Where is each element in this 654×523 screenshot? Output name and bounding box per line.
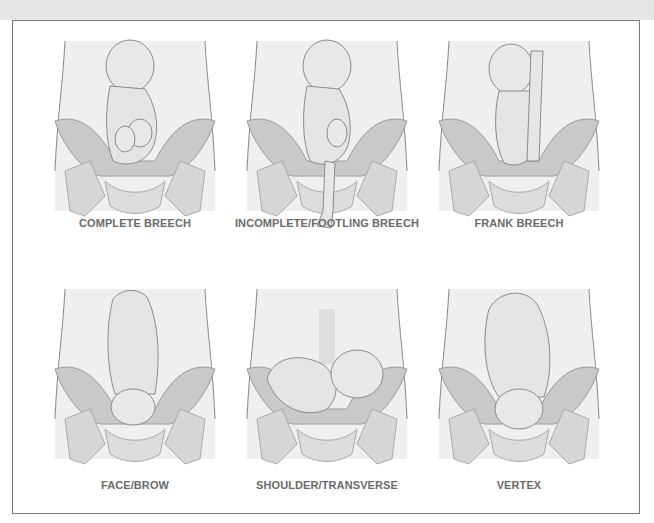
panel-vertex: VERTEX xyxy=(419,269,619,509)
panel-incomplete-footling-breech: INCOMPLETE/FOOTLING BREECH xyxy=(227,21,427,261)
vertex-illustration xyxy=(419,269,619,509)
panel-caption: VERTEX xyxy=(419,479,619,491)
panel-face-brow: FACE/BROW xyxy=(35,269,235,509)
face-brow-illustration xyxy=(35,269,235,509)
panel-caption: SHOULDER/TRANSVERSE xyxy=(227,479,427,491)
figure-frame: COMPLETE BREECH INCOMPLETE/FOOTLING BREE… xyxy=(12,20,640,514)
panel-caption: COMPLETE BREECH xyxy=(35,217,235,229)
panel-shoulder-transverse: SHOULDER/TRANSVERSE xyxy=(227,269,427,509)
shoulder-transverse-illustration xyxy=(227,269,427,509)
panel-caption: FRANK BREECH xyxy=(419,217,619,229)
panel-frank-breech: FRANK BREECH xyxy=(419,21,619,261)
panel-caption: INCOMPLETE/FOOTLING BREECH xyxy=(227,217,427,229)
top-band xyxy=(0,0,654,20)
panel-complete-breech: COMPLETE BREECH xyxy=(35,21,235,261)
panel-caption: FACE/BROW xyxy=(35,479,235,491)
